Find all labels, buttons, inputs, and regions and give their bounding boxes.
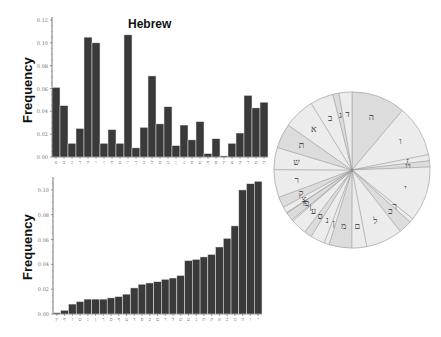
bar (76, 302, 84, 314)
bar (208, 254, 216, 314)
bar (52, 87, 60, 157)
x-tick-label: י (127, 159, 129, 165)
pie-slice-label: ד (345, 109, 349, 119)
bar (115, 297, 123, 314)
bar (108, 130, 116, 157)
x-tick-label: פ (215, 159, 218, 165)
bottom-plot-area: 0.000.020.040.060.080.10ץףזטגןךסףצדפבםרל… (0, 170, 275, 337)
x-tick-label: ב (149, 316, 152, 322)
x-tick-label: ק (239, 159, 242, 165)
y-tick-label: 0.10 (37, 40, 48, 46)
y-tick-label: 0.06 (37, 86, 48, 92)
x-tick-label: ר (164, 316, 167, 322)
bar (154, 282, 162, 314)
pie-slice-label: מ (341, 221, 346, 231)
x-tick-label: ל (150, 159, 154, 165)
bar (216, 247, 224, 314)
x-tick-label: ט (118, 159, 121, 165)
x-tick-label: צ (125, 316, 128, 322)
pie-slice-label: ע (311, 206, 316, 216)
bar (107, 298, 115, 314)
bar (124, 35, 132, 157)
pie-slice-label: ל (372, 216, 377, 226)
x-tick-label: מ (233, 316, 236, 322)
x-tick-label: נ (183, 159, 185, 165)
pie-center (351, 169, 354, 172)
bar (76, 128, 84, 157)
x-tick-label: צ (231, 159, 234, 165)
x-tick-label: י (257, 316, 259, 322)
pie-slice-label: ה (369, 112, 374, 122)
x-tick-label: ם (156, 316, 159, 322)
y-tick-label: 0.04 (38, 261, 49, 267)
x-tick-label: פ (141, 316, 144, 322)
bar (228, 143, 236, 157)
bar (231, 226, 239, 314)
bar (204, 154, 212, 157)
bar (132, 148, 140, 157)
x-tick-label: ף (63, 316, 66, 322)
bar (140, 127, 148, 157)
top-bar-chart: Hebrew Frequency 0.000.020.040.060.080.1… (0, 0, 275, 170)
bar (148, 76, 156, 157)
x-tick-label: מ (167, 159, 170, 165)
x-tick-label: ה (87, 159, 90, 165)
x-tick-label: ד (79, 159, 82, 165)
bar (61, 310, 69, 314)
bar (200, 257, 208, 314)
bar (60, 106, 68, 157)
pie-slice-label: כ (388, 206, 392, 216)
bottom-sorted-bar-chart: Frequency 0.000.020.040.060.080.10ץףזטגן… (0, 170, 275, 337)
bar (84, 299, 92, 314)
pie-slice-label: ג (339, 110, 342, 120)
x-tick-label: ו (95, 159, 96, 165)
x-tick-label: ץ (56, 316, 59, 322)
letter-pie-chart: הוזטיךכלםמןנסעףפץצקרשתאבגד (270, 85, 441, 260)
top-plot-area: 0.000.020.040.060.080.100.12אבגדהוזחטיךכ… (0, 0, 275, 170)
x-tick-label: ף (207, 159, 210, 165)
bar (138, 284, 146, 314)
x-tick-label: ם (158, 159, 161, 165)
x-tick-label: ן (95, 316, 96, 322)
bar (116, 143, 124, 157)
x-tick-label: ד (133, 316, 136, 322)
pie-slice-label: ת (299, 140, 305, 150)
bar (123, 294, 131, 314)
bar (169, 278, 177, 314)
x-tick-label: ט (79, 316, 82, 322)
y-tick-label: 0.10 (38, 187, 49, 193)
x-tick-label: ס (110, 316, 113, 322)
bar (236, 133, 244, 157)
bar (223, 238, 231, 314)
pie-slice-label: י (404, 183, 406, 193)
pie-slice-label: ר (294, 175, 298, 185)
bar (92, 43, 100, 157)
bar (161, 279, 169, 314)
pie-slice-label: ם (354, 221, 360, 231)
x-tick-label: ר (247, 159, 250, 165)
x-tick-label: ז (103, 159, 105, 165)
x-tick-label: א (218, 316, 221, 322)
bar (247, 184, 255, 314)
bar (239, 190, 247, 314)
x-tick-label: ת (202, 316, 205, 322)
bar (68, 304, 76, 314)
x-tick-label: ו (250, 316, 251, 322)
bar (177, 276, 185, 314)
x-tick-label: ן (175, 159, 176, 165)
bar (130, 288, 138, 314)
y-tick-label: 0.08 (37, 63, 48, 69)
x-tick-label: ש (179, 316, 183, 322)
pie-plot-area: הוזטיךכלםמןנסעףפץצקרשתאבגד (270, 85, 441, 260)
bar (244, 95, 252, 157)
x-tick-label: כ (226, 316, 229, 322)
x-tick-label: ק (210, 316, 213, 322)
x-tick-label: ף (117, 316, 120, 322)
x-tick-label: ה (241, 316, 244, 322)
pie-slice-label: ש (293, 157, 300, 167)
x-tick-label: ך (135, 159, 138, 165)
bar (180, 125, 188, 157)
x-tick-label: ג (87, 316, 89, 322)
pie-slice-label: נ (326, 215, 329, 225)
y-tick-label: 0.08 (38, 212, 49, 218)
